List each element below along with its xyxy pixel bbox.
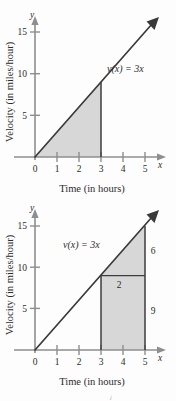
x-ticklabel-0-top: 0 — [33, 164, 38, 174]
y-ticklabel-5-bottom: 5 — [22, 304, 27, 314]
shaded-rectangle-bottom — [101, 276, 145, 350]
x-axis-name-bottom: x — [157, 353, 163, 363]
x-axis-name-top: x — [157, 160, 163, 170]
y-ticklabel-10-top: 10 — [18, 69, 28, 79]
x-ticklabel-3-bottom: 3 — [99, 357, 104, 367]
x-ticklabel-3-top: 3 — [99, 164, 104, 174]
equation-label-bottom: v(x) = 3x — [63, 239, 100, 251]
y-axis-caption-bottom: Velocity (in miles/hour) — [4, 234, 16, 335]
y-axis-name-top: y — [29, 10, 35, 20]
x-ticklabel-1-top: 1 — [55, 164, 60, 174]
x-ticklabel-1-bottom: 1 — [55, 357, 60, 367]
y-ticklabel-5-top: 5 — [22, 111, 27, 121]
x-axis-caption-bottom: Time (in hours) — [59, 376, 125, 388]
x-ticklabel-4-bottom: 4 — [121, 357, 126, 367]
x-ticklabel-5-top: 5 — [143, 164, 148, 174]
x-ticklabel-2-bottom: 2 — [77, 357, 82, 367]
chart-panel-bottom: y x 5 10 15 0 1 2 3 4 5 — [0, 198, 176, 401]
y-ticklabel-10-bottom: 10 — [18, 263, 28, 273]
label-triangle-area-6: 6 — [151, 246, 156, 256]
figure-root: y x 5 10 15 0 1 2 3 4 5 — [0, 0, 176, 401]
x-ticklabel-2-top: 2 — [77, 164, 82, 174]
label-width-2: 2 — [117, 280, 122, 290]
equation-label-top: v(x) = 3x — [107, 63, 144, 75]
x-ticklabel-0-bottom: 0 — [33, 357, 38, 367]
x-axis-caption-top: Time (in hours) — [59, 183, 125, 195]
x-ticklabel-5-bottom: 5 — [143, 357, 148, 367]
y-ticklabel-15-bottom: 15 — [18, 221, 28, 231]
chart-panel-top: y x 5 10 15 0 1 2 3 4 5 — [0, 0, 176, 198]
y-axis-caption-top: Velocity (in miles/hour) — [4, 41, 16, 142]
chart-bottom-svg: y x 5 10 15 0 1 2 3 4 5 — [0, 198, 176, 401]
scan-artifact-mark: ⱼ — [109, 392, 112, 401]
x-ticklabel-4-top: 4 — [121, 164, 126, 174]
chart-top-svg: y x 5 10 15 0 1 2 3 4 5 — [0, 0, 176, 198]
y-axis-name-bottom: y — [29, 203, 35, 213]
label-rectangle-area-9: 9 — [151, 306, 156, 316]
y-ticklabel-15-top: 15 — [18, 27, 28, 37]
